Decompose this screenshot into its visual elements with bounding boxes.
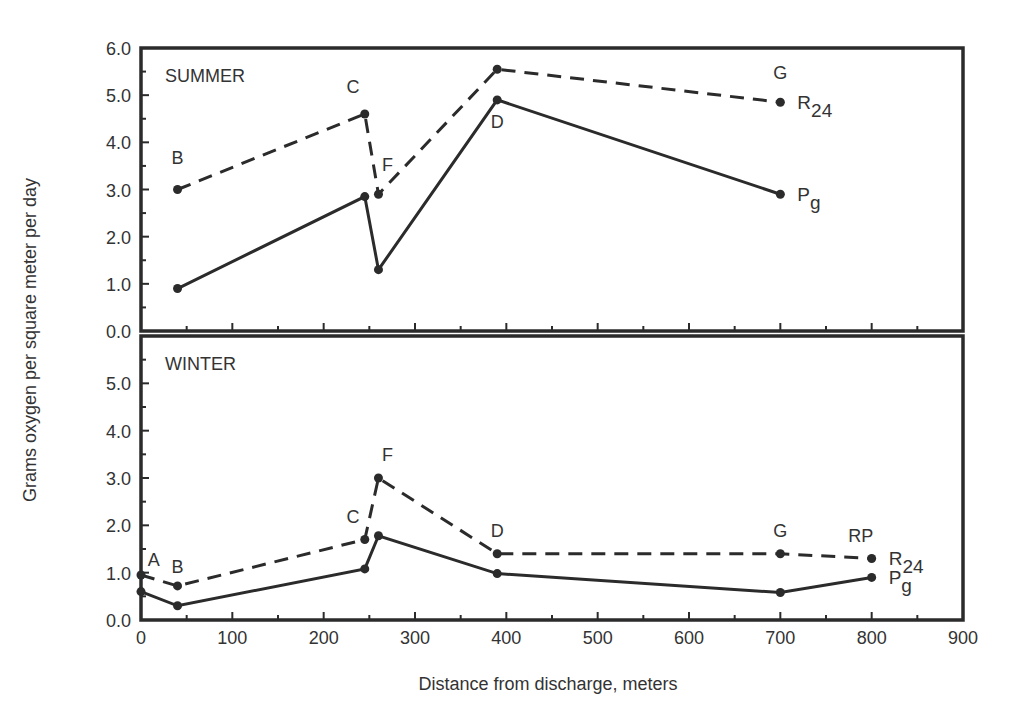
station-label: G — [773, 63, 787, 83]
x-tick-label: 800 — [857, 628, 887, 648]
data-point — [374, 265, 383, 274]
y-tick-label: 3.0 — [106, 469, 131, 489]
panel-winter: 0.01.02.03.04.05.0WINTERR24PgABCFDGRP — [106, 336, 963, 631]
x-tick-label: 900 — [948, 628, 978, 648]
x-tick-label: 400 — [491, 628, 521, 648]
station-label: D — [491, 112, 504, 132]
y-tick-label: 1.0 — [106, 564, 131, 584]
series-pg — [141, 536, 872, 606]
data-point — [776, 98, 785, 107]
y-tick-label: 4.0 — [106, 133, 131, 153]
data-point — [867, 573, 876, 582]
x-axis: 0100200300400500600700800900 — [136, 628, 978, 648]
x-tick-label: 0 — [136, 628, 146, 648]
x-tick-label: 600 — [674, 628, 704, 648]
station-label: C — [346, 507, 359, 527]
y-tick-label: 5.0 — [106, 374, 131, 394]
data-point — [137, 587, 146, 596]
data-point — [776, 549, 785, 558]
data-point — [776, 588, 785, 597]
y-tick-label: 5.0 — [106, 86, 131, 106]
y-tick-label: 0.0 — [106, 611, 131, 631]
panel-summer: 0.01.02.03.04.05.06.0SUMMERR24PgBCFDG — [106, 39, 963, 342]
station-label: B — [172, 557, 184, 577]
station-label: RP — [848, 526, 873, 546]
data-point — [360, 535, 369, 544]
data-point — [374, 474, 383, 483]
series-label-r24: R24 — [797, 92, 832, 121]
x-tick-label: 300 — [400, 628, 430, 648]
x-tick-label: 700 — [765, 628, 795, 648]
panel-title: WINTER — [165, 354, 236, 374]
data-point — [493, 549, 502, 558]
y-tick-label: 2.0 — [106, 516, 131, 536]
station-label: B — [172, 148, 184, 168]
data-point — [360, 564, 369, 573]
y-tick-label: 4.0 — [106, 422, 131, 442]
series-r24 — [178, 69, 781, 194]
panel-title: SUMMER — [165, 66, 245, 86]
x-tick-label: 500 — [583, 628, 613, 648]
y-tick-label: 2.0 — [106, 228, 131, 248]
series-pg — [178, 100, 781, 289]
x-tick-label: 100 — [217, 628, 247, 648]
data-point — [173, 581, 182, 590]
x-tick-label: 200 — [309, 628, 339, 648]
data-point — [493, 95, 502, 104]
data-point — [374, 531, 383, 540]
x-axis-label: Distance from discharge, meters — [418, 674, 677, 694]
chart-panels: 0.01.02.03.04.05.06.0SUMMERR24PgBCFDG0.0… — [106, 39, 963, 631]
series-r24 — [141, 478, 872, 586]
data-point — [360, 110, 369, 119]
data-point — [173, 601, 182, 610]
data-point — [867, 554, 876, 563]
data-point — [173, 185, 182, 194]
data-point — [493, 569, 502, 578]
data-point — [137, 571, 146, 580]
station-label: A — [148, 550, 160, 570]
series-label-pg: Pg — [797, 184, 820, 213]
station-label: F — [382, 445, 393, 465]
y-tick-label: 1.0 — [106, 275, 131, 295]
y-tick-label: 3.0 — [106, 181, 131, 201]
data-point — [374, 190, 383, 199]
station-label: G — [773, 521, 787, 541]
oxygen-chart: 0.01.02.03.04.05.06.0SUMMERR24PgBCFDG0.0… — [0, 0, 1021, 728]
y-tick-label: 6.0 — [106, 39, 131, 59]
y-tick-label: 0.0 — [106, 322, 131, 342]
panel-frame — [141, 48, 963, 331]
station-label: F — [382, 155, 393, 175]
station-label: C — [346, 77, 359, 97]
data-point — [776, 190, 785, 199]
data-point — [493, 65, 502, 74]
y-axis-label: Grams oxygen per square meter per day — [20, 178, 40, 502]
data-point — [173, 284, 182, 293]
station-label: D — [491, 521, 504, 541]
data-point — [360, 192, 369, 201]
